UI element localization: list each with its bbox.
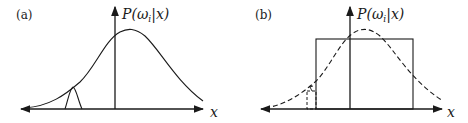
y-axis-label: P(ωi|x) xyxy=(356,6,404,24)
small-mark xyxy=(310,86,313,91)
posterior-curve xyxy=(25,29,203,108)
panel-a: (a) P(ωi|x) x xyxy=(16,6,218,120)
small-box xyxy=(307,91,316,109)
figure: (a) P(ωi|x) x (b) P(ωi|x) x xyxy=(0,0,468,123)
y-axis-label: P(ωi|x) xyxy=(121,6,169,24)
x-axis-label: x xyxy=(447,104,455,120)
panel-b: (b) P(ωi|x) x xyxy=(255,6,455,120)
uniform-box xyxy=(316,39,413,109)
panel-a-label: (a) xyxy=(16,8,33,22)
diagram: (a) P(ωi|x) x (b) P(ωi|x) x xyxy=(0,0,468,123)
likelihood-bump xyxy=(65,87,82,109)
posterior-curve-dashed xyxy=(265,29,443,108)
x-axis-label: x xyxy=(210,104,218,120)
panel-b-label: (b) xyxy=(255,8,272,22)
